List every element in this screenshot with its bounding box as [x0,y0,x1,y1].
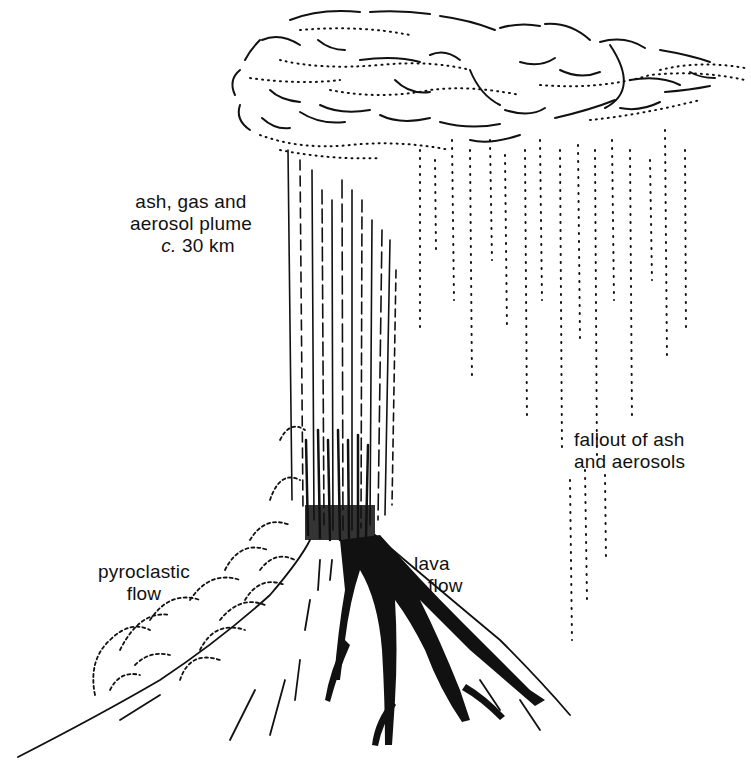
plume-height-prefix: c. [161,235,176,256]
lava-label-line2: flow [414,575,463,597]
volcano-eruption-diagram: ash, gas and aerosol plume c. 30 km fall… [0,0,751,775]
vent-dark-base [305,505,375,540]
illustration [0,0,751,775]
pyroclastic-label: pyroclastic flow [98,561,190,605]
fallout-label-line1: fallout of ash [574,429,685,451]
plume-label: ash, gas and aerosol plume c. 30 km [130,191,252,257]
plume-column [288,150,396,540]
pyroclastic-label-line2: flow [98,583,190,605]
cloud-stipple [250,28,745,158]
plume-height-value: 30 km [182,235,235,256]
lava-label: lava flow [414,553,463,597]
plume-height: c. 30 km [130,235,252,257]
pyroclastic-label-line1: pyroclastic [98,561,190,583]
plume-label-line1: ash, gas and [130,191,252,213]
plume-label-line2: aerosol plume [130,213,252,235]
fallout-label-line2: and aerosols [574,451,685,473]
lava-label-line1: lava [414,553,463,575]
fallout-label: fallout of ash and aerosols [574,429,685,473]
